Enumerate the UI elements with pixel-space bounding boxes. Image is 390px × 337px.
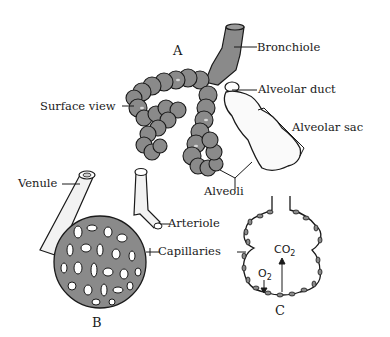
label-alveolar-sac: Alveolar sac — [292, 122, 363, 134]
label-surface-view: Surface view — [40, 101, 116, 113]
surface-view-clusters — [126, 69, 223, 176]
panel-label-c: C — [275, 304, 285, 317]
label-arteriole: Arteriole — [168, 218, 220, 230]
panel-label-b: B — [92, 316, 102, 329]
arteriole-shape — [134, 169, 162, 230]
alveoli-diagram: A B C Bronchiole Alveolar duct Surface v… — [0, 0, 390, 337]
label-bronchiole: Bronchiole — [257, 42, 320, 54]
label-o2: O2 — [258, 268, 272, 282]
label-alveoli: Alveoli — [204, 186, 244, 198]
panel-label-a: A — [173, 44, 182, 57]
bronchiole-shape — [205, 24, 244, 85]
label-alveolar-duct: Alveolar duct — [258, 84, 336, 96]
diagram-artwork — [0, 0, 390, 337]
label-venule: Venule — [18, 178, 57, 190]
label-co2: CO2 — [274, 244, 295, 258]
capillary-network — [54, 216, 146, 308]
label-capillaries: Capillaries — [158, 246, 221, 258]
